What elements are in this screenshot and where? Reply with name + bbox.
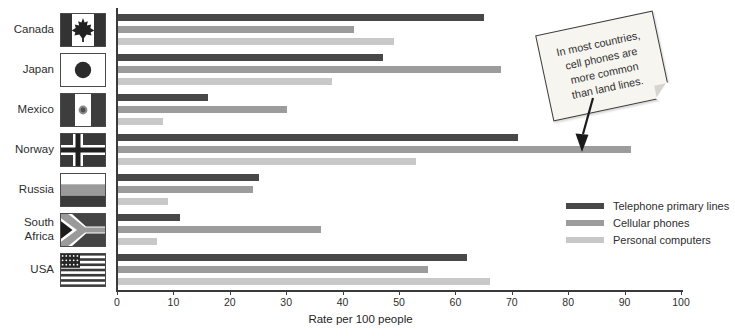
bar-chart-figure: CanadaJapanMexicoNorwayRussiaSouth Afric… [0, 0, 735, 336]
x-axis-label: Rate per 100 people [117, 313, 604, 325]
x-tick-mark [681, 291, 682, 295]
x-tick-label: 80 [553, 296, 583, 308]
x-tick-mark [625, 291, 626, 295]
legend-swatch-icon [566, 237, 604, 243]
x-tick-label: 0 [102, 296, 132, 308]
annotation-arrow-icon [556, 96, 602, 154]
country-label-south-africa: South Africa [0, 210, 54, 250]
x-tick-mark [399, 291, 400, 295]
x-tick-label: 20 [215, 296, 245, 308]
legend-item-telephone-primary-lines: Telephone primary lines [566, 200, 729, 212]
x-tick-mark [173, 291, 174, 295]
x-tick-label: 100 [666, 296, 696, 308]
country-label-norway: Norway [0, 130, 54, 170]
bar-south-africa-cellular-phones [118, 226, 321, 233]
bar-group-russia [118, 174, 259, 210]
x-tick-label: 50 [384, 296, 414, 308]
country-label-russia: Russia [0, 170, 54, 210]
bar-south-africa-telephone-primary-lines [118, 214, 180, 221]
bar-russia-cellular-phones [118, 186, 253, 193]
x-tick-mark [286, 291, 287, 295]
bar-japan-telephone-primary-lines [118, 54, 383, 61]
legend: Telephone primary linesCellular phonesPe… [566, 200, 729, 251]
bar-canada-telephone-primary-lines [118, 14, 485, 21]
country-label-japan: Japan [0, 50, 54, 90]
mexico-flag-icon [60, 93, 106, 127]
bar-mexico-cellular-phones [118, 106, 287, 113]
legend-label: Personal computers [613, 234, 711, 246]
bar-group-mexico [118, 94, 287, 130]
bar-mexico-telephone-primary-lines [118, 94, 208, 101]
bar-canada-cellular-phones [118, 26, 355, 33]
x-tick-label: 60 [440, 296, 470, 308]
russia-flag-icon [60, 173, 106, 207]
x-tick-label: 40 [328, 296, 358, 308]
legend-item-cellular-phones: Cellular phones [566, 217, 729, 229]
y-axis-line [116, 8, 118, 291]
bar-norway-cellular-phones [118, 146, 631, 153]
bar-norway-personal-computers [118, 158, 417, 165]
x-tick-label: 10 [158, 296, 188, 308]
legend-item-personal-computers: Personal computers [566, 234, 729, 246]
x-tick-mark [512, 291, 513, 295]
bar-group-south-africa [118, 214, 321, 250]
legend-label: Cellular phones [613, 217, 689, 229]
bar-norway-telephone-primary-lines [118, 134, 518, 141]
x-tick-mark [117, 291, 118, 295]
legend-swatch-icon [566, 203, 604, 209]
country-row-usa: USA [0, 250, 735, 290]
x-tick-mark [230, 291, 231, 295]
bar-usa-personal-computers [118, 278, 490, 285]
x-tick-label: 90 [610, 296, 640, 308]
bar-russia-telephone-primary-lines [118, 174, 259, 181]
country-label-usa: USA [0, 250, 54, 290]
bar-japan-personal-computers [118, 78, 332, 85]
legend-label: Telephone primary lines [613, 200, 729, 212]
x-tick-mark [343, 291, 344, 295]
south-africa-flag-icon [60, 213, 106, 247]
bar-usa-telephone-primary-lines [118, 254, 468, 261]
bar-group-usa [118, 254, 490, 290]
bar-usa-cellular-phones [118, 266, 428, 273]
japan-flag-icon [60, 53, 106, 87]
bar-russia-personal-computers [118, 198, 169, 205]
bar-group-canada [118, 14, 485, 50]
bar-mexico-personal-computers [118, 118, 163, 125]
x-tick-label: 30 [271, 296, 301, 308]
x-tick-label: 70 [497, 296, 527, 308]
bar-group-norway [118, 134, 631, 170]
legend-swatch-icon [566, 220, 604, 226]
canada-flag-icon [60, 13, 106, 47]
country-label-canada: Canada [0, 10, 54, 50]
sticky-note-text: In most countries, cell phones are more … [555, 28, 651, 105]
bar-canada-personal-computers [118, 38, 394, 45]
bar-group-japan [118, 54, 502, 90]
bar-south-africa-personal-computers [118, 238, 158, 245]
bar-japan-cellular-phones [118, 66, 502, 73]
norway-flag-icon [60, 133, 106, 167]
usa-flag-icon [60, 253, 106, 287]
x-tick-mark [568, 291, 569, 295]
country-row-norway: Norway [0, 130, 735, 170]
x-tick-mark [455, 291, 456, 295]
country-label-mexico: Mexico [0, 90, 54, 130]
